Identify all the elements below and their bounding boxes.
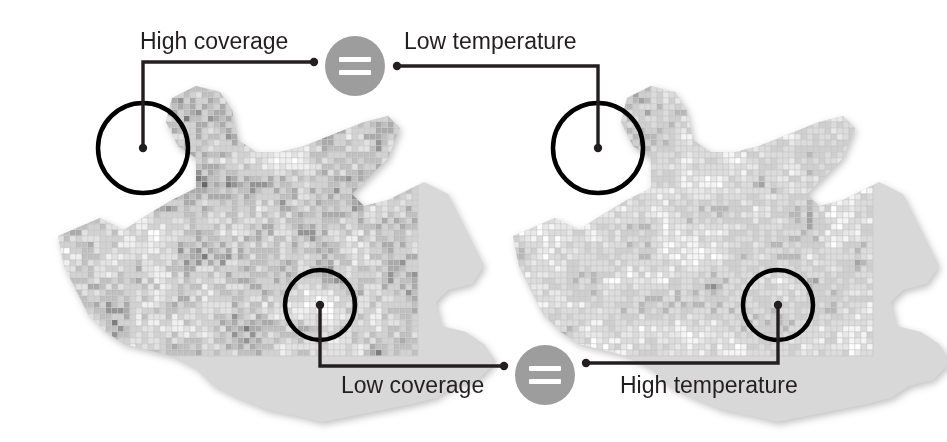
label-high-coverage: High coverage	[140, 28, 288, 54]
connector-anchor-dot-bottom-right	[774, 301, 782, 309]
figure-canvas: High coverage Low temperature Low covera…	[0, 0, 947, 442]
connector-top-left	[143, 62, 314, 148]
equals-icon-bottom	[515, 345, 575, 405]
connector-anchor-dot-top-right	[594, 144, 602, 152]
equals-bar-lower	[339, 70, 371, 75]
connector-anchor-dot-bottom-left	[316, 301, 324, 309]
label-low-coverage: Low coverage	[341, 372, 484, 398]
equals-bar-lower	[529, 379, 561, 384]
connector-end-dot-bottom-left	[500, 362, 508, 370]
connector-end-dot-top-right	[393, 62, 401, 70]
equals-bar-upper	[529, 366, 561, 371]
equals-bar-upper	[339, 57, 371, 62]
label-low-temperature: Low temperature	[404, 28, 577, 54]
connector-top-right	[397, 66, 598, 148]
connector-end-dot-top-left	[310, 58, 318, 66]
equals-icon-top	[325, 36, 385, 96]
connector-bottom-right	[586, 305, 778, 363]
connector-anchor-dot-top-left	[139, 144, 147, 152]
connector-end-dot-bottom-right	[582, 359, 590, 367]
connector-bottom-left	[320, 305, 504, 366]
label-high-temperature: High temperature	[620, 372, 798, 398]
